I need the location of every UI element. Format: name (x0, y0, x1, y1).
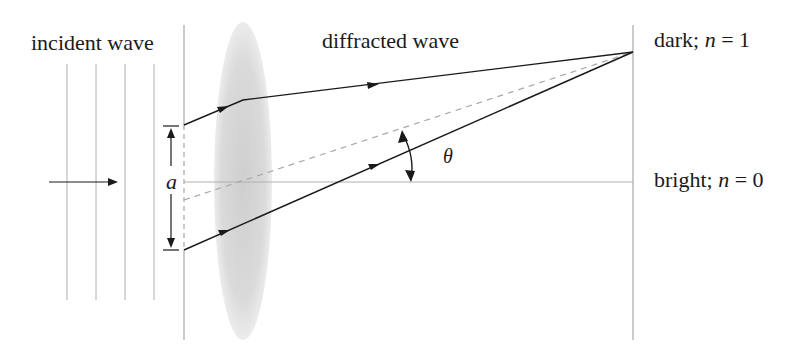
bright-fringe-label: bright; n = 0 (654, 167, 764, 192)
angle-label: θ (443, 145, 453, 167)
single-slit-diffraction-diagram: a θ incident wave diffracted wave dark; … (0, 0, 806, 351)
diffracted-wave-label: diffracted wave (322, 28, 459, 53)
incident-wave-label: incident wave (31, 30, 154, 55)
slit-width-label: a (166, 169, 177, 194)
ray-arrow-icon (368, 164, 380, 170)
lens (214, 22, 272, 340)
dark-fringe-label: dark; n = 1 (654, 27, 750, 52)
angle-arc-icon (398, 130, 415, 182)
incident-arrow-icon (49, 178, 118, 186)
